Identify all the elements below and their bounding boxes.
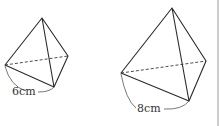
hidden-edge: [121, 61, 206, 73]
edge-length-label: 8cm: [137, 102, 161, 115]
visible-edges: [5, 18, 68, 87]
hidden-edge: [5, 56, 68, 65]
tetrahedra-diagram: 6cm 8cm: [0, 0, 222, 126]
edge-length-label: 6cm: [12, 85, 36, 98]
large-tetrahedron: 8cm: [121, 8, 206, 115]
visible-edges: [121, 8, 206, 101]
small-tetrahedron: 6cm: [5, 18, 68, 98]
